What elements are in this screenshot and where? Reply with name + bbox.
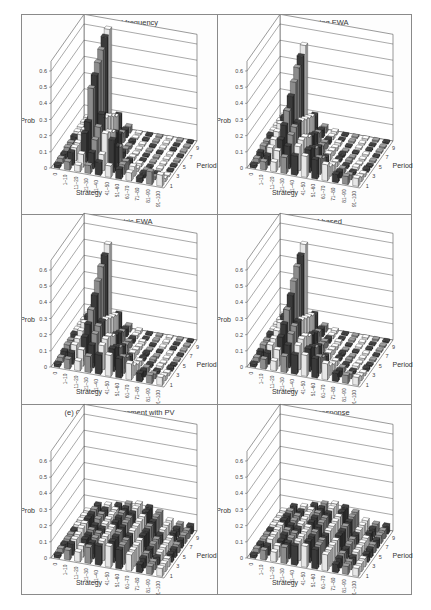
y-tick-label: 0.3 <box>39 117 47 123</box>
bar <box>341 331 349 336</box>
bar <box>157 565 165 577</box>
bar <box>332 561 339 573</box>
y-tick-label: 0.2 <box>39 133 47 139</box>
x-tick-label: 0 <box>53 372 58 375</box>
bar <box>376 347 384 352</box>
bar <box>166 334 173 339</box>
bar <box>353 175 361 187</box>
bar <box>146 372 154 384</box>
x-tick-label: 71–80 <box>135 187 140 201</box>
bar <box>146 168 154 185</box>
bar <box>157 172 165 187</box>
y-tick-label: 0.3 <box>39 507 47 513</box>
bar <box>291 153 298 176</box>
x-axis-label: Strategy <box>76 388 103 396</box>
bar <box>166 135 173 140</box>
bar <box>373 153 381 158</box>
z-tick-label: 7 <box>189 353 192 359</box>
bar <box>157 374 165 386</box>
bar <box>353 374 361 386</box>
x-tick-label: 0 <box>249 563 254 566</box>
x-tick-label: 11–20 <box>270 375 275 388</box>
y-tick-label: 0 <box>240 364 243 370</box>
y-tick-label: 0 <box>44 555 47 561</box>
bar <box>156 150 163 155</box>
bar <box>54 552 62 559</box>
bar <box>312 156 320 179</box>
bar <box>163 339 170 344</box>
x-tick-label: 51–60 <box>311 183 316 197</box>
y-tick-label: 0.1 <box>39 149 47 155</box>
bar <box>250 361 258 368</box>
y-axis-label: Prob <box>22 507 35 514</box>
x-tick-label: 1–10 <box>259 174 264 185</box>
bar <box>376 148 384 153</box>
z-tick-label: 1 <box>366 382 369 388</box>
bar <box>281 154 289 174</box>
bar <box>145 132 153 137</box>
y-tick-label: 0.2 <box>235 332 243 338</box>
x-tick-label: 11–20 <box>270 566 275 579</box>
x-tick-label: 51–60 <box>115 183 120 197</box>
bar <box>156 349 163 354</box>
bar <box>142 137 150 142</box>
y-tick-label: 0 <box>44 165 47 171</box>
y-axis-label: Prob <box>218 117 231 124</box>
x-tick-label: 0 <box>53 563 58 566</box>
y-tick-label: 0.2 <box>235 133 243 139</box>
bar <box>64 547 71 560</box>
chart-plot: 00.10.20.30.40.50.6Prob01–1011–2021–3031… <box>22 15 217 214</box>
x-tick-label: 41–50 <box>105 572 110 586</box>
bar <box>322 360 330 380</box>
x-tick-label: 41–50 <box>301 381 306 395</box>
x-tick-label: 91–100 <box>352 581 357 595</box>
z-axis-label: Period <box>197 552 217 559</box>
bar <box>355 145 362 150</box>
bar <box>271 549 279 562</box>
z-axis-label: Period <box>393 162 413 169</box>
x-tick-label: 11–20 <box>74 566 79 579</box>
bar <box>75 358 83 371</box>
z-tick-label: 3 <box>372 173 375 179</box>
z-tick-label: 3 <box>176 563 179 569</box>
bar <box>159 145 166 150</box>
z-tick-label: 5 <box>379 363 382 369</box>
x-tick-label: 11–20 <box>270 176 275 189</box>
bar <box>260 159 267 171</box>
y-tick-label: 0.4 <box>235 299 243 305</box>
y-tick-label: 0.5 <box>235 283 243 289</box>
y-tick-label: 0.6 <box>235 267 243 273</box>
bar <box>105 163 113 178</box>
chart-plot: 00.10.20.30.40.50.6Prob01–1011–2021–3031… <box>218 15 413 214</box>
z-tick-label: 9 <box>196 344 199 350</box>
z-tick-label: 9 <box>196 535 199 541</box>
bar <box>281 353 289 373</box>
bar <box>291 543 298 566</box>
x-axis-label: Strategy <box>272 579 299 587</box>
bar <box>353 565 361 577</box>
bar <box>379 343 387 348</box>
bar <box>145 331 153 336</box>
bar <box>64 356 71 369</box>
y-tick-label: 0.5 <box>39 283 47 289</box>
z-tick-label: 9 <box>392 145 395 151</box>
x-tick-label: 51–60 <box>115 573 120 587</box>
bar <box>75 162 83 172</box>
bar <box>180 347 188 352</box>
chart-panel-f: (f) Quantal response 00.10.20.30.40.50.6… <box>218 396 413 595</box>
z-tick-label: 9 <box>392 535 395 541</box>
bar <box>135 146 143 151</box>
y-tick-label: 0.2 <box>39 332 47 338</box>
y-tick-label: 0.5 <box>39 84 47 90</box>
bar <box>126 169 133 181</box>
z-tick-label: 5 <box>183 164 186 170</box>
bar <box>159 344 166 349</box>
bar <box>170 163 178 168</box>
x-tick-label: 51–60 <box>311 382 316 396</box>
chart-plot: 00.10.20.30.40.50.6Prob01–1011–2021–3031… <box>218 396 413 595</box>
x-tick-label: 1–10 <box>259 373 264 384</box>
bar <box>312 355 320 378</box>
z-tick-label: 3 <box>176 173 179 179</box>
bar <box>136 370 143 382</box>
z-tick-label: 9 <box>392 344 395 350</box>
